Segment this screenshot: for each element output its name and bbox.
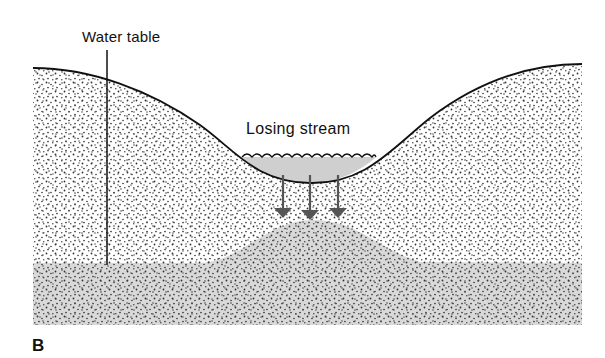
water-surface-waves-icon: [242, 154, 376, 157]
unsaturated-zone: [33, 60, 583, 330]
water-table-label: Water table: [82, 28, 160, 45]
losing-stream-label: Losing stream: [246, 120, 350, 138]
losing-stream-diagram: [0, 0, 605, 358]
panel-label: B: [32, 336, 44, 356]
